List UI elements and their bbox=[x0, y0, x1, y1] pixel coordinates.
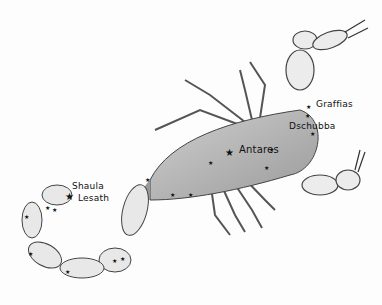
star-label-dschubba: Dschubba bbox=[289, 121, 336, 131]
svg-text:★: ★ bbox=[170, 191, 175, 198]
svg-text:★: ★ bbox=[264, 164, 269, 171]
svg-text:★: ★ bbox=[208, 159, 213, 166]
svg-text:★: ★ bbox=[45, 204, 50, 211]
svg-text:★: ★ bbox=[225, 147, 234, 158]
svg-text:★: ★ bbox=[305, 112, 310, 119]
star-label-graffias: Graffias bbox=[316, 99, 353, 109]
svg-text:★: ★ bbox=[52, 206, 57, 213]
illustration-canvas: ★ ★ ★ ★ ★ ★ ★ ★ ★ ★ ★ ★ ★ ★ ★ ★ ★ ★ Graf… bbox=[0, 0, 382, 305]
svg-text:★: ★ bbox=[24, 213, 29, 220]
scorpion-drawing: ★ ★ ★ ★ ★ ★ ★ ★ ★ ★ ★ ★ ★ ★ ★ ★ ★ ★ bbox=[0, 0, 382, 305]
star-label-antares: Antares bbox=[239, 144, 279, 155]
svg-text:★: ★ bbox=[120, 255, 125, 262]
svg-text:★: ★ bbox=[112, 257, 117, 264]
svg-text:★: ★ bbox=[306, 103, 311, 110]
svg-text:★: ★ bbox=[65, 268, 70, 275]
svg-text:★: ★ bbox=[65, 191, 74, 202]
star-label-shaula: Shaula bbox=[72, 181, 104, 191]
svg-text:★: ★ bbox=[188, 191, 193, 198]
svg-text:★: ★ bbox=[310, 130, 315, 137]
svg-text:★: ★ bbox=[145, 176, 150, 183]
svg-text:★: ★ bbox=[28, 250, 33, 257]
star-label-lesath: Lesath bbox=[78, 193, 109, 203]
